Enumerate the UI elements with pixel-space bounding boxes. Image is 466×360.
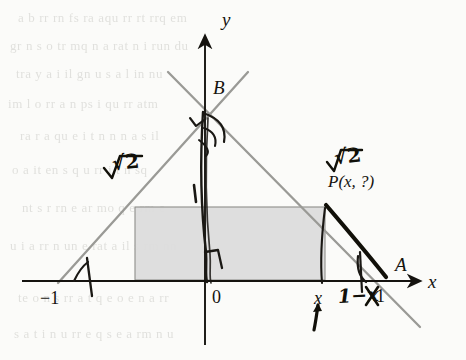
point-label-P: P(x, ?) [328, 173, 374, 190]
annotation-one-minus-x: 1−x [338, 285, 379, 306]
height-tick-mark [194, 185, 196, 202]
point-label-A: A [395, 255, 407, 274]
segment-PA-pencil [326, 205, 386, 277]
vertical-at-x-pencil [321, 208, 325, 283]
right-angle-mark-origin [205, 250, 222, 268]
angle-arc-apex-inner [204, 128, 216, 146]
geometry-figure: a b rr rn fs ra aqu rr rt rrq em gr n s … [0, 0, 466, 360]
angle-tick-left-vertex [87, 258, 92, 296]
angle-mark-left-vertex [74, 262, 88, 281]
annotation-sqrt2-left: √2 [111, 151, 140, 174]
x-axis-label: x [428, 272, 436, 291]
tick-label-origin: 0 [212, 288, 221, 306]
tick-label-x: x [314, 289, 322, 307]
point-label-B: B [213, 78, 225, 97]
y-axis-label: y [222, 10, 230, 29]
tick-label-minus-one: −1 [40, 289, 59, 307]
pencil-annotation-layer [0, 0, 466, 360]
annotation-sqrt2-right: √2 [333, 144, 362, 167]
